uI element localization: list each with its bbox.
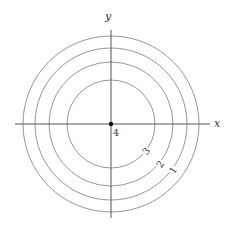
contour-label-2: 2	[153, 158, 167, 171]
contour-labels: 3 2 1	[139, 144, 180, 176]
center-point	[109, 122, 113, 126]
y-axis-label: y	[104, 10, 112, 23]
contour-diagram: x y 4 3 2 1	[0, 0, 235, 230]
center-point-label: 4	[113, 127, 119, 138]
x-axis-label: x	[214, 117, 221, 130]
